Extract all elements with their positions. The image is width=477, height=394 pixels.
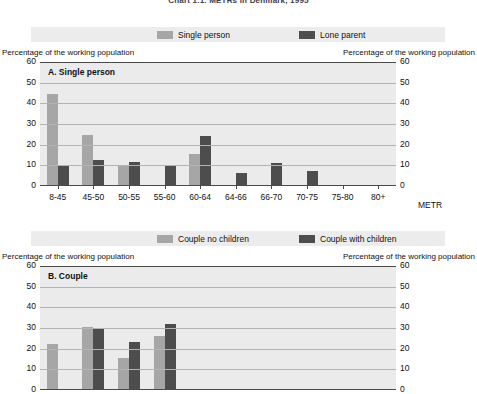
x-tick-55-60 — [165, 186, 166, 189]
bar-light-55-60 — [154, 336, 165, 390]
bar-light-50-55 — [118, 166, 129, 186]
x-tick-8-45 — [58, 186, 59, 189]
y-tick-right-0: 0 — [400, 385, 422, 394]
y-tick-right-10: 10 — [400, 364, 422, 373]
legend-item-couple-no-children: Couple no children — [157, 234, 249, 244]
y-tick-right-10: 10 — [400, 160, 422, 169]
panel-label-b: B. Couple — [48, 271, 88, 281]
bar-light-8-45 — [47, 344, 58, 391]
y-tick-left-60: 60 — [14, 261, 36, 270]
bar-light-8-45 — [47, 94, 58, 186]
x-tick-80+ — [378, 186, 379, 189]
plot-area-b — [40, 266, 396, 390]
x-tick-66-70 — [271, 186, 272, 189]
gridline-40 — [40, 103, 396, 104]
x-axis-unit-a: METR — [418, 200, 442, 210]
y-tick-left-30: 30 — [14, 323, 36, 332]
y-tick-left-10: 10 — [14, 160, 36, 169]
bar-dark-64-66 — [236, 173, 247, 186]
y-tick-right-40: 40 — [400, 302, 422, 311]
y-tick-left-30: 30 — [14, 119, 36, 128]
bar-dark-55-60 — [165, 166, 176, 186]
gridline-60 — [40, 266, 396, 267]
y-tick-left-0: 0 — [14, 385, 36, 394]
bar-light-45-50 — [82, 327, 93, 390]
legend-label-couple-no-children: Couple no children — [178, 234, 249, 244]
bar-dark-45-50 — [93, 160, 104, 186]
bar-dark-55-60 — [165, 324, 176, 390]
y-tick-right-60: 60 — [400, 57, 422, 66]
bar-dark-66-70 — [271, 163, 282, 186]
y-tick-left-20: 20 — [14, 140, 36, 149]
gridline-50 — [40, 287, 396, 288]
x-tick-50-55 — [129, 186, 130, 189]
bar-dark-8-45 — [58, 166, 69, 186]
legend-item-single-person: Single person — [157, 30, 230, 40]
figure-title: Chart 1.1. METRs in Denmark, 1995 — [0, 0, 477, 5]
x-tick-64-66 — [236, 186, 237, 189]
y-tick-right-60: 60 — [400, 261, 422, 270]
legend-label-single-person: Single person — [178, 30, 230, 40]
y-tick-right-30: 30 — [400, 119, 422, 128]
y-tick-left-50: 50 — [14, 78, 36, 87]
y-tick-left-10: 10 — [14, 364, 36, 373]
legend-swatch-couple-no-children — [157, 235, 173, 243]
legend-swatch-couple-with-children — [299, 235, 315, 243]
bar-light-50-55 — [118, 358, 129, 390]
x-tick-45-50 — [93, 186, 94, 189]
legend-label-couple-with-children: Couple with children — [320, 234, 397, 244]
plot-area-a — [40, 62, 396, 186]
y-tick-right-40: 40 — [400, 98, 422, 107]
y-tick-right-20: 20 — [400, 140, 422, 149]
legend-panel-a: Single person Lone parent — [31, 27, 445, 42]
y-tick-right-50: 50 — [400, 282, 422, 291]
gridline-20 — [40, 145, 396, 146]
gridline-20 — [40, 349, 396, 350]
gridline-10 — [40, 165, 396, 166]
legend-swatch-single-person — [157, 31, 173, 39]
x-tick-75-80 — [343, 186, 344, 189]
legend-label-lone-parent: Lone parent — [320, 30, 365, 40]
legend-panel-b: Couple no children Couple with children — [31, 231, 445, 246]
axis-caption-left-a: Percentage of the working population — [2, 48, 134, 57]
y-tick-right-30: 30 — [400, 323, 422, 332]
y-tick-left-20: 20 — [14, 344, 36, 353]
gridline-10 — [40, 369, 396, 370]
gridline-30 — [40, 328, 396, 329]
gridline-40 — [40, 307, 396, 308]
gridline-0 — [40, 389, 396, 390]
axis-caption-left-b: Percentage of the working population — [2, 252, 134, 261]
bar-dark-45-50 — [93, 329, 104, 390]
x-tick-70-75 — [307, 186, 308, 189]
gridline-30 — [40, 124, 396, 125]
y-tick-left-40: 40 — [14, 302, 36, 311]
legend-item-lone-parent: Lone parent — [299, 30, 365, 40]
bar-light-45-50 — [82, 135, 93, 186]
y-tick-left-0: 0 — [14, 181, 36, 190]
legend-swatch-lone-parent — [299, 31, 315, 39]
y-tick-right-50: 50 — [400, 78, 422, 87]
x-tick-label-80+: 80+ — [353, 192, 403, 202]
y-tick-left-40: 40 — [14, 98, 36, 107]
gridline-60 — [40, 62, 396, 63]
y-tick-left-50: 50 — [14, 282, 36, 291]
gridline-50 — [40, 83, 396, 84]
bar-light-60-64 — [189, 154, 200, 186]
panel-label-a: A. Single person — [48, 67, 115, 77]
y-tick-left-60: 60 — [14, 57, 36, 66]
bar-dark-70-75 — [307, 171, 318, 187]
y-tick-right-0: 0 — [400, 181, 422, 190]
x-tick-60-64 — [200, 186, 201, 189]
legend-item-couple-with-children: Couple with children — [299, 234, 397, 244]
y-tick-right-20: 20 — [400, 344, 422, 353]
